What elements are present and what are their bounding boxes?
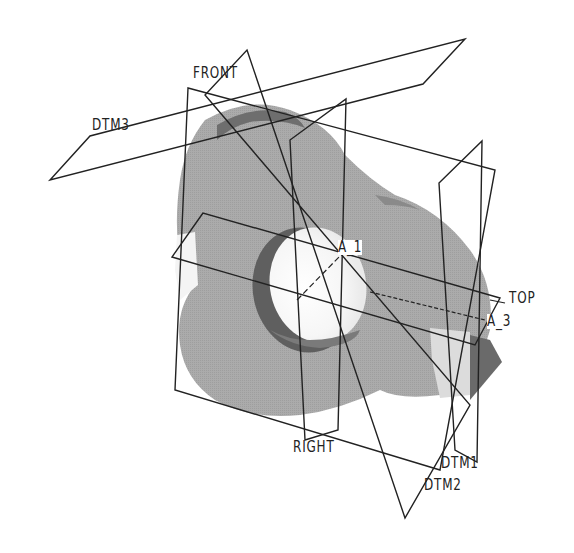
datum-label-dtm3[interactable]: DTM3 (92, 118, 130, 133)
axis-label-a3[interactable]: A_3 (487, 314, 511, 329)
datum-label-dtm2[interactable]: DTM2 (424, 478, 462, 493)
part-model[interactable] (175, 104, 502, 416)
model-canvas[interactable] (0, 0, 574, 553)
model-viewport[interactable]: FRONT DTM3 TOP RIGHT DTM1 DTM2 A_1 A_3 (0, 0, 574, 553)
datum-label-top[interactable]: TOP (509, 291, 535, 306)
datum-label-front[interactable]: FRONT (193, 66, 238, 81)
datum-label-dtm1[interactable]: DTM1 (441, 456, 479, 471)
axis-label-a1[interactable]: A_1 (338, 240, 362, 255)
datum-label-right[interactable]: RIGHT (293, 440, 335, 455)
